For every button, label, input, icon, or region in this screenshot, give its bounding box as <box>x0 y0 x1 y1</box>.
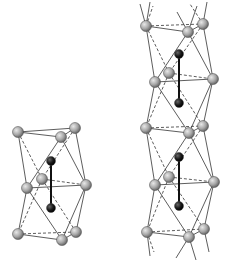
grey-atom <box>209 177 220 188</box>
grey-atom <box>199 224 210 235</box>
grey-atom <box>198 121 209 132</box>
grey-atom <box>70 123 81 134</box>
dark-atom <box>175 99 184 108</box>
grey-atom <box>13 229 24 240</box>
grey-atom <box>13 127 24 138</box>
grey-atom <box>150 77 161 88</box>
dark-atom <box>175 50 184 59</box>
grey-atom <box>22 183 33 194</box>
grey-atom <box>141 21 152 32</box>
dark-atom <box>175 153 184 162</box>
grey-atom <box>198 19 209 30</box>
grey-atom <box>164 68 175 79</box>
grey-atom <box>37 174 48 185</box>
grey-atom <box>141 123 152 134</box>
grey-atom <box>208 74 219 85</box>
dark-atom <box>47 204 56 213</box>
grey-atom <box>164 172 175 183</box>
grey-atom <box>183 27 194 38</box>
grey-atom <box>56 132 67 143</box>
grey-atom <box>184 232 195 243</box>
stacked-column-atoms <box>141 19 220 243</box>
dark-atom <box>47 157 56 166</box>
grey-atom <box>150 180 161 191</box>
grey-atom <box>81 180 92 191</box>
grey-atom <box>142 227 153 238</box>
grey-atom <box>71 227 82 238</box>
dark-atom <box>175 202 184 211</box>
grey-atom <box>184 128 195 139</box>
grey-atom <box>57 235 68 246</box>
crystal-structure-figure <box>0 0 233 269</box>
